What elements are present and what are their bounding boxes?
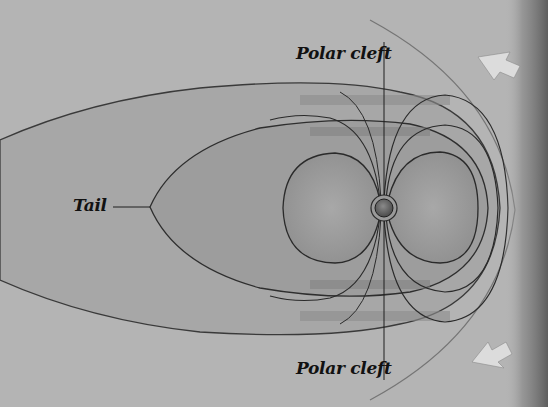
band-bottom-outer [300, 311, 450, 321]
polar-cleft-top-label: Polar cleft [296, 43, 392, 63]
magnetosphere-diagram: Polar cleft Polar cleft Tail [0, 0, 548, 407]
field-loop-left-inner [283, 153, 380, 263]
right-shadow [505, 0, 548, 407]
tail-label: Tail [73, 195, 107, 215]
earth [375, 199, 393, 217]
polar-cleft-bottom-label: Polar cleft [296, 358, 392, 378]
band-top-outer [300, 95, 450, 105]
